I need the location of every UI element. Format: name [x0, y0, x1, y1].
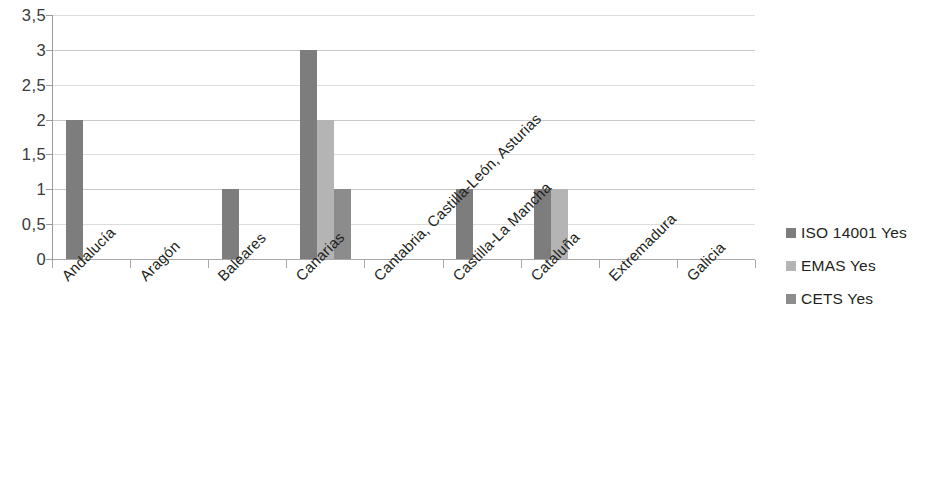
- x-axis-tick-mark: [286, 260, 287, 268]
- legend-item[interactable]: CETS Yes: [786, 282, 907, 315]
- y-axis: 00,511,522,533,5: [0, 0, 46, 275]
- legend-label: EMAS Yes: [801, 257, 876, 275]
- y-axis-tick-mark: [46, 189, 53, 190]
- bar-group: [286, 15, 364, 259]
- y-axis-tick-label: 0: [2, 251, 46, 268]
- bar: [66, 120, 83, 259]
- x-axis-tick-mark: [677, 260, 678, 268]
- y-axis-tick-mark: [46, 154, 53, 155]
- x-axis-tick-mark: [521, 260, 522, 268]
- y-axis-tick-label: 2,5: [2, 77, 46, 94]
- y-axis-tick-label: 3,5: [2, 7, 46, 24]
- y-axis-tick-mark: [46, 120, 53, 121]
- legend-swatch-icon: [786, 228, 796, 238]
- bar-group: [521, 15, 599, 259]
- plot-area: [52, 15, 755, 259]
- bar-chart: 00,511,522,533,5 AndalucíaAragónBaleares…: [0, 0, 944, 502]
- legend-item[interactable]: EMAS Yes: [786, 249, 907, 282]
- x-axis-tick-mark: [52, 260, 53, 268]
- x-axis-tick-mark: [443, 260, 444, 268]
- bar: [300, 50, 317, 259]
- y-axis-tick-label: 1,5: [2, 146, 46, 163]
- y-axis-tick-label: 3: [2, 42, 46, 59]
- bar-group: [52, 15, 130, 259]
- legend-item[interactable]: ISO 14001 Yes: [786, 216, 907, 249]
- y-axis-tick-mark: [46, 85, 53, 86]
- x-axis-tick-mark: [599, 260, 600, 268]
- legend-swatch-icon: [786, 261, 796, 271]
- legend-swatch-icon: [786, 294, 796, 304]
- bar-group: [677, 15, 755, 259]
- y-axis-tick-label: 0,5: [2, 216, 46, 233]
- legend-label: CETS Yes: [801, 290, 873, 308]
- y-axis-tick-mark: [46, 15, 53, 16]
- x-axis-tick-mark: [130, 260, 131, 268]
- legend-label: ISO 14001 Yes: [801, 224, 907, 242]
- y-axis-tick-mark: [46, 259, 53, 260]
- y-axis-tick-mark: [46, 224, 53, 225]
- bar-group: [208, 15, 286, 259]
- bar-group: [130, 15, 208, 259]
- y-axis-tick-label: 1: [2, 181, 46, 198]
- y-axis-tick-label: 2: [2, 112, 46, 129]
- chart-legend: ISO 14001 YesEMAS YesCETS Yes: [786, 216, 907, 315]
- x-axis-tick-mark: [208, 260, 209, 268]
- y-axis-tick-mark: [46, 50, 53, 51]
- x-axis-tick-mark: [755, 260, 756, 268]
- x-axis-tick-mark: [364, 260, 365, 268]
